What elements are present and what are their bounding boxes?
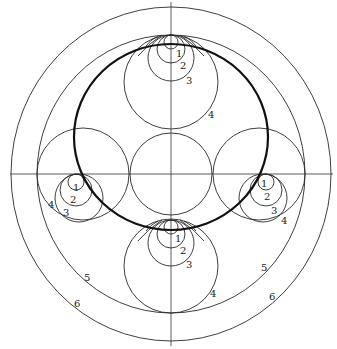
label-top-2: 2	[180, 60, 186, 71]
label-top-3: 3	[186, 75, 192, 86]
label-left-4: 4	[48, 199, 54, 210]
label-right-2: 2	[264, 191, 270, 202]
label-top-4: 4	[208, 109, 214, 120]
label-outer-right-5: 5	[261, 262, 267, 273]
label-bottom-2: 2	[180, 245, 186, 256]
circle-diagram: 1 2 3 4 1 2 3 4 1 2 3 4 1 2 3 4 5 6 5 6	[0, 0, 337, 349]
label-bottom-4: 4	[210, 288, 216, 299]
label-left-3: 3	[63, 207, 69, 218]
label-bottom-1: 1	[175, 233, 181, 244]
label-left-1: 1	[73, 182, 79, 193]
label-outer-left-6: 6	[74, 298, 80, 309]
label-bottom-3: 3	[186, 259, 192, 270]
label-right-1: 1	[261, 178, 267, 189]
label-outer-left-5: 5	[84, 272, 90, 283]
label-left-2: 2	[70, 194, 76, 205]
label-top-1: 1	[176, 48, 182, 59]
label-right-4: 4	[281, 215, 287, 226]
label-right-3: 3	[271, 205, 277, 216]
label-outer-right-6: 6	[269, 291, 275, 302]
